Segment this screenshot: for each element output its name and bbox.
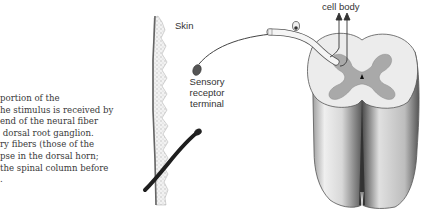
label-skin: Skin [175,20,193,31]
hair-shaft [145,132,198,190]
sensory-receptor-terminal [191,63,202,76]
label-line: Sensory [181,76,233,87]
label-cell-body: cell body [322,1,360,12]
label-line: receptor [181,87,233,98]
sensory-fiber [199,33,285,64]
spinal-cord [307,33,419,208]
label-sensory-receptor-terminal: Sensory receptor terminal [181,76,233,109]
label-line: terminal [181,98,233,109]
